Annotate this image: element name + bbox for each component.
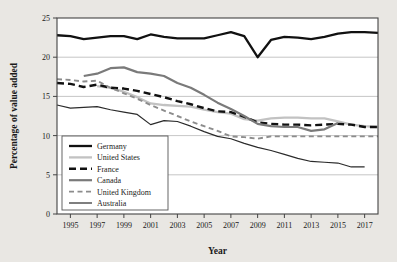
legend-label: United States <box>97 153 140 162</box>
x-tick-label: 2017 <box>357 221 373 230</box>
x-tick-label: 2015 <box>330 221 346 230</box>
y-tick-label: 10 <box>42 132 50 141</box>
legend-label: Australia <box>97 199 127 208</box>
legend-label: United Kingdom <box>97 188 152 197</box>
x-tick-label: 2003 <box>169 221 185 230</box>
x-tick-label: 2007 <box>223 221 239 230</box>
x-tick-label: 2011 <box>277 221 293 230</box>
y-axis-label: Percentage of value added <box>9 62 19 169</box>
chart-figure: 1995199719992001200320052007200920112013… <box>0 0 397 262</box>
line-chart: 1995199719992001200320052007200920112013… <box>0 0 397 262</box>
x-tick-label: 1995 <box>62 221 78 230</box>
x-tick-label: 1999 <box>116 221 132 230</box>
x-tick-label: 2005 <box>196 221 212 230</box>
y-tick-label: 20 <box>42 53 50 62</box>
y-tick-label: 5 <box>46 171 50 180</box>
legend-label: Canada <box>97 176 121 185</box>
x-tick-label: 2013 <box>303 221 319 230</box>
x-tick-label: 2001 <box>143 221 159 230</box>
x-tick-label: 1997 <box>89 221 105 230</box>
y-tick-label: 15 <box>42 92 50 101</box>
y-tick-label: 0 <box>46 210 50 219</box>
y-tick-label: 25 <box>42 14 50 23</box>
x-tick-label: 2009 <box>250 221 266 230</box>
legend-label: Germany <box>97 142 127 151</box>
legend-label: France <box>97 165 119 174</box>
chart-legend: GermanyUnited StatesFranceCanadaUnited K… <box>62 136 168 210</box>
x-axis-label: Year <box>208 246 228 256</box>
